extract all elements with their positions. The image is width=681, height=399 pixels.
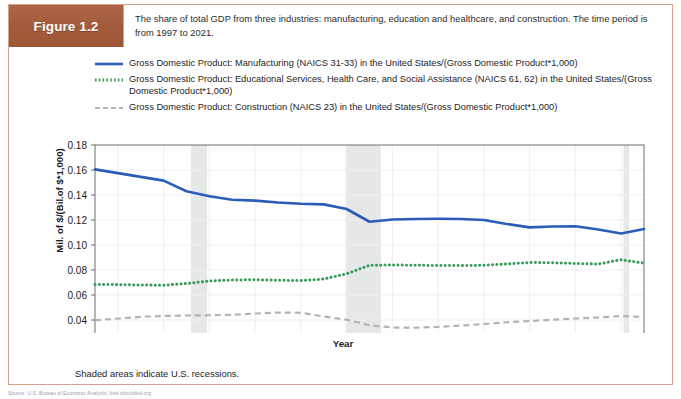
chart-plot-area: Mil. of $/(Bil.of $*1,000) 0.020.040.060… bbox=[33, 133, 653, 358]
legend-swatch-dashed-gray bbox=[95, 102, 123, 114]
y-axis-tick-label: 0.18 bbox=[68, 140, 88, 151]
y-axis-tick-label: 0.10 bbox=[68, 240, 88, 251]
legend-swatch-dotted-green bbox=[95, 74, 123, 86]
legend-entry-label: Gross Domestic Product: Manufacturing (N… bbox=[129, 57, 578, 70]
y-axis-tick-label: 0.16 bbox=[68, 165, 88, 176]
y-axis-tick-label: 0.04 bbox=[68, 315, 88, 326]
legend-entry-label: Gross Domestic Product: Construction (NA… bbox=[129, 101, 557, 114]
source-strip: Source: U.S. Bureau of Economic Analysis… bbox=[8, 390, 673, 399]
legend-entry-label: Gross Domestic Product: Educational Serv… bbox=[129, 73, 659, 98]
recession-band bbox=[345, 145, 380, 333]
figure-number-badge: Figure 1.2 bbox=[9, 5, 123, 47]
chart-legend: Gross Domestic Product: Manufacturing (N… bbox=[95, 57, 665, 116]
recession-band bbox=[623, 145, 629, 333]
chart-canvas: 0.020.040.060.080.100.120.140.160.181998… bbox=[33, 133, 653, 333]
legend-entry: Gross Domestic Product: Manufacturing (N… bbox=[95, 57, 665, 70]
y-axis-tick-label: 0.12 bbox=[68, 215, 88, 226]
figure-caption: The share of total GDP from three indust… bbox=[123, 5, 672, 47]
x-axis-label: Year bbox=[33, 338, 653, 349]
recession-band bbox=[191, 145, 207, 333]
legend-swatch-solid-blue bbox=[95, 58, 123, 70]
y-axis-tick-label: 0.08 bbox=[68, 265, 88, 276]
figure-header: Figure 1.2 The share of total GDP from t… bbox=[9, 5, 672, 47]
chart-footnote: Shaded areas indicate U.S. recessions. bbox=[75, 368, 239, 379]
figure-card: Figure 1.2 The share of total GDP from t… bbox=[8, 4, 673, 385]
y-axis-tick-label: 0.14 bbox=[68, 190, 88, 201]
y-axis-tick-label: 0.06 bbox=[68, 290, 88, 301]
legend-entry: Gross Domestic Product: Construction (NA… bbox=[95, 101, 665, 114]
legend-entry: Gross Domestic Product: Educational Serv… bbox=[95, 73, 665, 98]
